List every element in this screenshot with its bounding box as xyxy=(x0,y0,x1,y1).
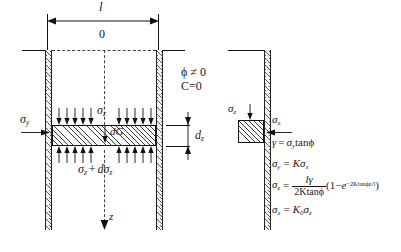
eq-sigma-y-rhs: Kσ xyxy=(293,157,306,169)
label-sigma-y-left: σy xyxy=(20,113,29,126)
eq-sigma-x-rhs: K xyxy=(293,203,300,215)
eq-sigma-x-equals: = xyxy=(280,203,292,215)
condition-cohesion: C=0 xyxy=(181,80,202,92)
label-self-weight-dG: dG xyxy=(110,126,123,137)
label-dz: dz xyxy=(195,129,204,142)
eq-sigma-x-rhs-tail-subscript: z xyxy=(309,209,312,216)
equation-gamma: γ=σytanϕ xyxy=(272,136,314,149)
eq-sigma-y-equals: = xyxy=(280,157,292,169)
eq-sigma-z-factor: (1−e−2Ktanϕz/l) xyxy=(326,180,379,191)
eq-sigma-z-denominator: 2Ktanϕ xyxy=(292,187,326,197)
dimension-arrow-l xyxy=(47,14,159,28)
detail-sigma-z-arrow xyxy=(246,104,254,120)
eq-sigma-y-rhs-subscript: x xyxy=(305,163,308,170)
eq-sigma-z-equals: = xyxy=(280,180,292,191)
equation-sigma-x: σx=K0σz xyxy=(272,203,312,216)
dimension-label-width: l xyxy=(99,0,103,13)
wall-element-detail xyxy=(238,120,264,143)
depth-axis-arrowhead xyxy=(100,218,109,230)
dsigma-z-subscript: z xyxy=(110,168,113,177)
condition-phi: ϕ ≠ 0 xyxy=(181,66,206,78)
eq-sigma-z-paren-close: ) xyxy=(375,179,379,191)
label-sigma-z-top: σz xyxy=(97,104,106,117)
dsigma-z-symbol: dσ xyxy=(98,162,110,176)
diagram-canvas: l 0 z ϕ ≠ 0 C=0 xyxy=(0,0,401,252)
eq-sigma-z-fraction: lγ 2Ktanϕ xyxy=(292,174,326,197)
eq-sigma-z-exponent: −2Ktanϕz/l xyxy=(346,180,375,187)
wall-right xyxy=(156,50,163,230)
equation-sigma-y: σy=Kσx xyxy=(272,157,308,170)
eq-gamma-equals: = xyxy=(276,136,286,148)
depth-axis-label-z: z xyxy=(109,211,113,222)
load-arrows-bottom xyxy=(55,146,155,163)
dz-subscript: z xyxy=(201,134,204,143)
equation-sigma-z: σz = lγ 2Ktanϕ (1−e−2Ktanϕz/l) xyxy=(272,174,379,197)
eq-sigma-z-numerator: lγ xyxy=(292,174,326,185)
sigma-z-top-subscript: z xyxy=(103,109,106,118)
sigma-y-subscript: y xyxy=(26,118,29,127)
sigma-z-bottom-plus: + xyxy=(87,162,98,176)
eq-gamma-rhs-tail: tanϕ xyxy=(295,136,314,148)
dz-dimension-arrow xyxy=(183,110,193,162)
ground-line-right xyxy=(163,50,185,51)
self-weight-arrow xyxy=(101,126,109,143)
label-sigma-z-bottom: σz+dσz xyxy=(78,163,112,176)
label-detail-sigma-z: σz xyxy=(228,103,236,115)
sigma-y-arrow xyxy=(21,128,50,137)
origin-label: 0 xyxy=(99,28,105,40)
wall-left xyxy=(45,50,52,230)
wall-right-detail xyxy=(264,50,271,230)
eq-sigma-z-lhs-group: σz xyxy=(272,179,280,191)
label-detail-sigma-x: σx xyxy=(272,114,280,126)
detail-sigma-z-subscript: z xyxy=(233,108,236,115)
detail-sigma-x-subscript: x xyxy=(277,119,280,126)
eq-sigma-z-paren-open: (1 xyxy=(326,179,335,191)
